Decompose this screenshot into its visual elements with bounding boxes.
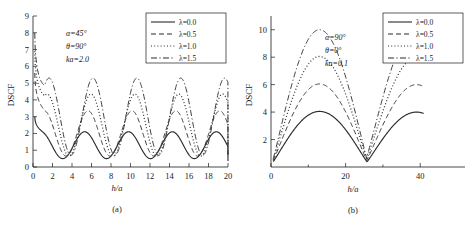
panel-a-ytick-8: 8 [25, 28, 29, 38]
panel-b-xtick-40: 40 [416, 171, 425, 181]
panel-a-plot: 012345678902468101214161820 DSCF h/a α=4… [0, 0, 236, 230]
panel-a-legend-label-3: λ=1.5 [179, 54, 196, 63]
panel-b-legend-label-2: λ=1.0 [416, 42, 433, 51]
panel-a-xtick-10: 10 [126, 171, 135, 181]
panel-a-ytick-7: 7 [25, 45, 29, 55]
panel-a-ytick-5: 5 [25, 78, 29, 88]
panel-b-ytick-4: 4 [263, 107, 268, 117]
figure-container: 012345678902468101214161820 DSCF h/a α=4… [0, 0, 471, 230]
panel-b-xtick-0: 0 [269, 171, 273, 181]
panel-a-xtick-2: 2 [50, 171, 54, 181]
panel-b-ytick-6: 6 [263, 80, 267, 90]
panel-a-legend-label-2: λ=1.0 [179, 42, 196, 51]
panel-b-legend-label-1: λ=0.5 [416, 30, 433, 39]
panel-a-xtick-20: 20 [224, 171, 233, 181]
panel-a-caption: (a) [112, 204, 122, 214]
panel-a-xtick-14: 14 [165, 171, 174, 181]
panel-b-ytick-2: 2 [263, 135, 267, 145]
panel-a-y-axis-title: DSCF [6, 84, 16, 107]
panel-a-xtick-18: 18 [204, 171, 213, 181]
panel-a-annotation-ka: ka=2.0 [66, 55, 89, 64]
panel-a-xtick-16: 16 [185, 171, 194, 181]
panel-a-ytick-1: 1 [25, 145, 29, 155]
panel-a-annotation-alpha: α=45° [66, 29, 88, 38]
panel-b-y-axis-title: DSCF [244, 84, 254, 107]
panel-a-ytick-9: 9 [25, 11, 29, 21]
panel-a-x-axis-title: h/a [112, 183, 123, 193]
panel-a-xtick-8: 8 [109, 171, 113, 181]
panel-a: 012345678902468101214161820 DSCF h/a α=4… [0, 0, 236, 230]
panel-b: 24681002040 DSCF h/a α=90° θ=0° ka=0.1 λ… [235, 0, 471, 230]
panel-b-annotation-alpha: α=90° [325, 33, 347, 42]
panel-b-annotation-ka: ka=0.1 [325, 59, 348, 68]
panel-b-ytick-8: 8 [263, 52, 267, 62]
panel-a-ytick-3: 3 [25, 112, 29, 122]
panel-a-ytick-6: 6 [25, 61, 29, 71]
panel-b-x-axis-title: h/a [348, 184, 359, 194]
panel-b-xtick-20: 20 [341, 171, 350, 181]
panel-b-annotation-theta: θ=0° [325, 46, 342, 55]
panel-a-series-1 [35, 73, 228, 158]
panel-b-legend: λ=0.0 λ=0.5 λ=1.0 λ=1.5 [383, 13, 463, 63]
panel-a-xtick-0: 0 [31, 171, 35, 181]
panel-a-legend-label-1: λ=0.5 [179, 30, 196, 39]
panel-b-legend-label-0: λ=0.0 [416, 18, 433, 27]
panel-b-series-0 [273, 111, 423, 161]
panel-b-caption: (b) [348, 205, 358, 215]
panel-a-ytick-4: 4 [25, 95, 30, 105]
panel-a-legend: λ=0.0 λ=0.5 λ=1.0 λ=1.5 [146, 13, 226, 63]
panel-b-plot: 24681002040 DSCF h/a α=90° θ=0° ka=0.1 λ… [235, 0, 471, 230]
panel-a-annotation-theta: θ=90° [66, 42, 87, 51]
panel-b-legend-label-3: λ=1.5 [416, 54, 433, 63]
panel-a-series-2 [35, 51, 228, 156]
panel-a-xtick-4: 4 [70, 171, 75, 181]
panel-a-xtick-6: 6 [89, 171, 93, 181]
panel-a-xtick-12: 12 [146, 171, 155, 181]
panel-b-series-1 [273, 84, 423, 161]
panel-a-ytick-2: 2 [25, 128, 29, 138]
panel-b-ytick-10: 10 [259, 25, 268, 35]
panel-a-legend-label-0: λ=0.0 [179, 18, 196, 27]
panel-a-ytick-0: 0 [25, 162, 29, 172]
